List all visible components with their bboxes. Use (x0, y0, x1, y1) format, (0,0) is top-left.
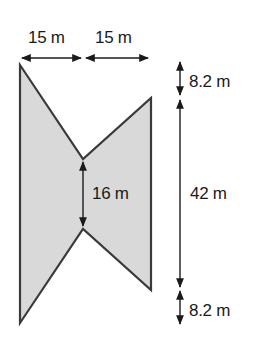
notch-gap-label: 16 m (92, 184, 129, 204)
bottom-offset-label: 8.2 m (189, 301, 230, 321)
total-height-label: 42 m (190, 184, 227, 204)
top-offset-label: 8.2 m (189, 72, 230, 92)
composite-shape (20, 65, 151, 323)
top-left-width-label: 15 m (28, 28, 65, 48)
diagram-canvas (0, 0, 257, 337)
top-right-width-label: 15 m (95, 28, 132, 48)
